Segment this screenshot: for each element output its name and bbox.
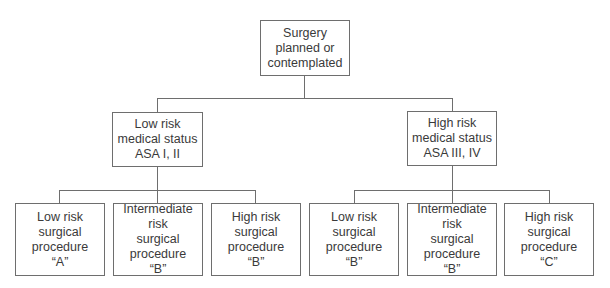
connector-low-medical-down bbox=[157, 166, 158, 190]
connector-to-proc-4 bbox=[354, 190, 355, 203]
node-label: High risk surgical procedure “B” bbox=[228, 210, 284, 270]
connector-root-down bbox=[304, 75, 305, 98]
node-label: High risk medical status ASA III, IV bbox=[412, 116, 492, 161]
connector-to-proc-6 bbox=[549, 190, 550, 203]
node-procedure-high-risk-c: High risk surgical procedure “C” bbox=[504, 203, 594, 276]
connector-level1-horizontal bbox=[157, 98, 453, 99]
node-label: High risk surgical procedure “C” bbox=[521, 210, 577, 270]
node-procedure-intermediate-risk-b: Intermediate risk surgical procedure “B” bbox=[113, 203, 203, 276]
node-high-risk-medical-status: High risk medical status ASA III, IV bbox=[407, 111, 497, 166]
node-label: Intermediate risk surgical procedure “B” bbox=[114, 202, 202, 277]
connector-to-low-risk-medical bbox=[157, 98, 158, 112]
connector-to-proc-1 bbox=[59, 190, 60, 203]
root-node-surgery: Surgery planned or contemplated bbox=[260, 20, 350, 76]
connector-to-proc-3 bbox=[255, 190, 256, 203]
node-procedure-intermediate-risk-b-2: Intermediate risk surgical procedure “B” bbox=[407, 203, 497, 276]
node-procedure-low-risk-b: Low risk surgical procedure “B” bbox=[309, 203, 399, 276]
connector-high-medical-down bbox=[452, 165, 453, 190]
connector-to-high-risk-medical bbox=[452, 98, 453, 111]
node-procedure-low-risk-a: Low risk surgical procedure “A” bbox=[15, 203, 105, 276]
root-node-label: Surgery planned or contemplated bbox=[267, 26, 342, 71]
node-label: Intermediate risk surgical procedure “B” bbox=[408, 202, 496, 277]
node-procedure-high-risk-b: High risk surgical procedure “B” bbox=[211, 203, 301, 276]
node-label: Low risk surgical procedure “B” bbox=[326, 210, 382, 270]
node-label: Low risk surgical procedure “A” bbox=[32, 210, 88, 270]
node-low-risk-medical-status: Low risk medical status ASA I, II bbox=[112, 112, 203, 167]
node-label: Low risk medical status ASA I, II bbox=[118, 117, 198, 162]
